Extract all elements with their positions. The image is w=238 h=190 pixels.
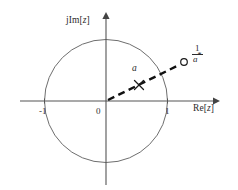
real-axis-label: Re[z] xyxy=(193,104,214,114)
conjugate-star-icon: * xyxy=(198,51,202,60)
zero-marker-open-circle-icon xyxy=(181,59,188,66)
zero-label: 1 a* xyxy=(192,44,203,65)
fraction-denominator: a* xyxy=(192,55,203,64)
plot-canvas xyxy=(0,0,238,190)
imaginary-axis-label: jIm[z] xyxy=(66,16,90,26)
tick-label-neg-one: -1 xyxy=(39,107,47,116)
pole-marker-x-icon xyxy=(135,81,144,90)
up-arrow-icon xyxy=(102,12,109,19)
pole-label: a xyxy=(132,64,137,74)
radial-dashed-line xyxy=(108,65,179,100)
complex-plane-figure: jIm[z] Re[z] -1 0 1 a 1 a* xyxy=(0,0,238,190)
tick-label-zero: 0 xyxy=(96,107,101,116)
fraction-one-over-a-conjugate: 1 a* xyxy=(192,44,203,65)
tick-label-one: 1 xyxy=(165,107,170,116)
